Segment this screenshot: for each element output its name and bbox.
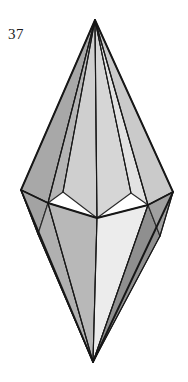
figure-number-label: 37 [8,27,24,42]
figure-plate: 37 [0,0,188,382]
hexagonal-bipyramid-illustration [0,0,188,382]
facet-lower-center-left [48,203,97,362]
